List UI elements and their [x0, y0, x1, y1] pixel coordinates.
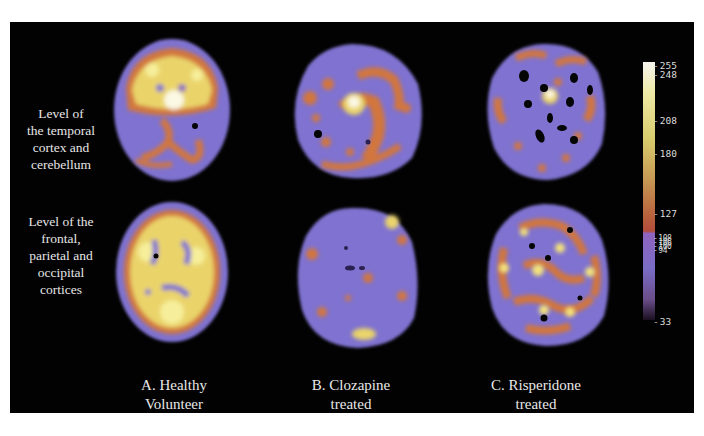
column-label-healthy: A. Healthy Volunteer: [99, 376, 249, 414]
row-label-line: parietal and: [12, 247, 110, 264]
column-label-line: C. Risperidone: [461, 376, 611, 395]
colorbar-tick-label: 94: [653, 248, 667, 253]
column-label-risperidone: C. Risperidone treated: [461, 376, 611, 414]
row-label-line: Level of: [12, 105, 110, 122]
scan-risperidone-frontal: [474, 194, 624, 354]
row-label-line: Level of the: [12, 213, 110, 230]
column-label-line: Volunteer: [99, 395, 249, 414]
row-label-line: the temporal: [12, 122, 110, 139]
row-label-line: cerebellum: [12, 156, 110, 173]
scan-clozapine-temporal: [282, 36, 432, 186]
column-label-clozapine: B. Clozapine treated: [276, 376, 426, 414]
colorbar-tick-label: 127: [653, 209, 677, 219]
colorbar-tick-label: 180: [653, 149, 677, 159]
colorbar-tick-label: 33: [653, 317, 671, 327]
column-label-line: treated: [276, 395, 426, 414]
row-label-frontal-parietal-occipital: Level of the frontal, parietal and occip…: [12, 213, 110, 298]
scan-healthy-frontal: [102, 192, 242, 352]
scan-healthy-temporal: [102, 30, 242, 190]
colorbar: [643, 62, 655, 320]
scan-risperidone-temporal: [476, 36, 616, 186]
colorbar-tick-label: 248: [653, 70, 677, 80]
row-label-line: cortices: [12, 281, 110, 298]
colorbar-tick-label: 208: [653, 116, 677, 126]
column-label-line: A. Healthy: [99, 376, 249, 395]
column-label-line: treated: [461, 395, 611, 414]
row-label-line: cortex and: [12, 139, 110, 156]
column-label-line: B. Clozapine: [276, 376, 426, 395]
scan-clozapine-frontal: [288, 198, 428, 358]
row-label-line: occipital: [12, 264, 110, 281]
figure-panel: Level of the temporal cortex and cerebel…: [10, 22, 694, 413]
row-label-line: frontal,: [12, 230, 110, 247]
row-label-temporal-cerebellum: Level of the temporal cortex and cerebel…: [12, 105, 110, 173]
